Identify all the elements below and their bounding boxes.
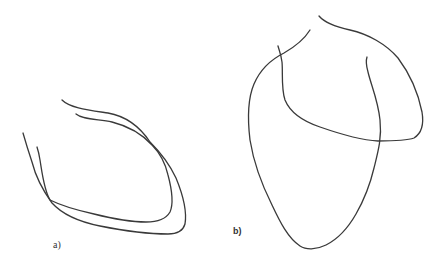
panel-a-inner-contour xyxy=(37,114,172,222)
panel-b-drawing xyxy=(248,16,422,249)
panel-b-label: b) xyxy=(233,227,242,236)
panel-a-outer-contour xyxy=(23,100,186,234)
figure: a) b) xyxy=(0,0,444,264)
panel-a-label: a) xyxy=(53,240,61,250)
panel-a-drawing xyxy=(23,100,186,234)
panel-b-heart-contour xyxy=(248,30,380,249)
panel-b-arch-contour xyxy=(278,16,423,141)
line-drawing xyxy=(0,0,444,264)
